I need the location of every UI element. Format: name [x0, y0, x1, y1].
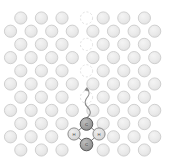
- lattice-atom: [149, 52, 161, 64]
- lattice-atom: [56, 12, 68, 24]
- lattice-atom: [46, 25, 58, 37]
- lattice-atom: [66, 78, 78, 90]
- lattice-atom: [4, 104, 16, 116]
- defect-atom-right: [93, 128, 105, 140]
- lattice-atom: [128, 131, 140, 143]
- lattice-atom: [149, 78, 161, 90]
- lattice-atom: [107, 78, 119, 90]
- lattice-atom: [25, 25, 37, 37]
- lattice-atom: [15, 12, 27, 24]
- lattice-figure: CHHC: [0, 0, 173, 162]
- lattice-atom: [149, 25, 161, 37]
- lattice-atom: [87, 25, 99, 37]
- lattice-atom: [118, 65, 130, 77]
- lattice-atom: [35, 118, 47, 130]
- lattice-atom: [4, 25, 16, 37]
- lattice-atom: [66, 25, 78, 37]
- lattice-atom: [46, 104, 58, 116]
- lattice-atom: [97, 38, 109, 50]
- lattice-atom: [15, 118, 27, 130]
- lattice-canvas: CHHC: [0, 0, 173, 162]
- defect-atom-left: [68, 128, 80, 140]
- lattice-atom: [46, 52, 58, 64]
- lattice-atom: [128, 78, 140, 90]
- lattice-atom: [56, 38, 68, 50]
- lattice-atom: [56, 65, 68, 77]
- lattice-atom: [56, 118, 68, 130]
- lattice-atom: [46, 131, 58, 143]
- lattice-atom: [128, 25, 140, 37]
- lattice-atom: [97, 144, 109, 156]
- lattice-atom: [4, 131, 16, 143]
- lattice-atom: [87, 78, 99, 90]
- lattice-atom: [87, 104, 99, 116]
- lattice-atom: [118, 144, 130, 156]
- lattice-atom: [15, 144, 27, 156]
- defect-atom-bottom: [80, 138, 93, 151]
- lattice-atom: [25, 104, 37, 116]
- lattice-atom: [15, 38, 27, 50]
- defect-atom-top: [80, 118, 93, 131]
- lattice-atom: [97, 12, 109, 24]
- lattice-atom: [97, 91, 109, 103]
- lattice-atom: [35, 144, 47, 156]
- lattice-atom: [149, 104, 161, 116]
- lattice-atom: [35, 65, 47, 77]
- lattice-atom: [97, 65, 109, 77]
- lattice-atom: [56, 144, 68, 156]
- lattice-atom: [35, 12, 47, 24]
- lattice-atom: [35, 91, 47, 103]
- lattice-atom: [138, 65, 150, 77]
- lattice-atom: [56, 91, 68, 103]
- lattice-atom: [15, 91, 27, 103]
- lattice-atom: [149, 131, 161, 143]
- lattice-atom: [46, 78, 58, 90]
- lattice-atom: [118, 91, 130, 103]
- lattice-atom: [118, 12, 130, 24]
- lattice-atom: [107, 104, 119, 116]
- lattice-atom: [4, 78, 16, 90]
- lattice-atom: [87, 52, 99, 64]
- lattice-atom: [66, 52, 78, 64]
- lattice-atom: [35, 38, 47, 50]
- lattice-atom: [118, 118, 130, 130]
- lattice-atom: [66, 104, 78, 116]
- lattice-atom: [107, 52, 119, 64]
- lattice-atom: [4, 52, 16, 64]
- lattice-atom: [138, 91, 150, 103]
- lattice-atom: [107, 131, 119, 143]
- lattice-atom: [138, 118, 150, 130]
- lattice-atom: [128, 52, 140, 64]
- lattice-atom: [25, 52, 37, 64]
- lattice-atom: [107, 25, 119, 37]
- lattice-atom: [138, 12, 150, 24]
- lattice-atom: [118, 38, 130, 50]
- lattice-atom: [138, 38, 150, 50]
- lattice-atom: [15, 65, 27, 77]
- lattice-atom: [25, 78, 37, 90]
- lattice-atom: [138, 144, 150, 156]
- lattice-atom: [25, 131, 37, 143]
- lattice-atom: [128, 104, 140, 116]
